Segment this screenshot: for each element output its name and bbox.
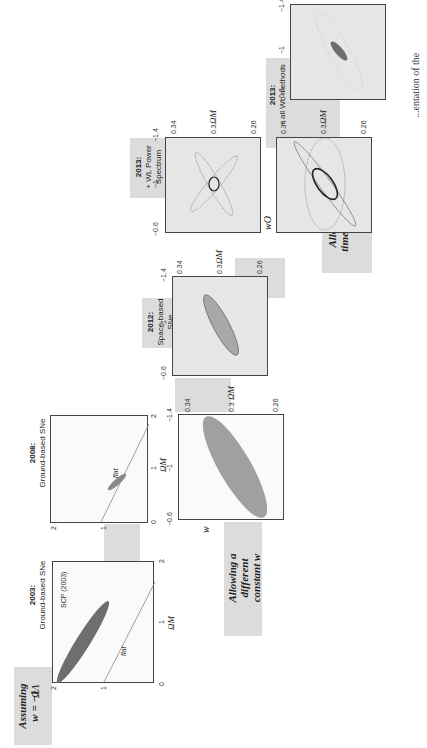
wl-ps-ellipse-b xyxy=(186,153,241,216)
panel-2013all-ytick-1: −1 xyxy=(278,46,285,54)
panel-2013ps-year: 2013: xyxy=(134,138,144,196)
panel-2003-ytick-1: 1 xyxy=(100,686,107,690)
wo-ellipse-long xyxy=(290,138,361,229)
panel-constant-w-ytick-06: −0.6 xyxy=(166,512,173,526)
panel-2008-ytick-1: 1 xyxy=(100,526,107,530)
panel-2012-xlabel: ΩM xyxy=(214,250,224,264)
panel-2012-year: 2012: xyxy=(146,294,156,350)
panel-2012-xtick-034: 0.34 xyxy=(176,260,183,274)
panel-2013ps-xtick-034: 0.34 xyxy=(170,120,177,134)
panel-2013all-year: 2013: xyxy=(268,62,278,128)
constant-w-ellipse xyxy=(192,409,278,525)
panel-constant-w-xlabel: ΩM xyxy=(226,386,236,400)
panel-2013ps-svg xyxy=(166,136,262,232)
flat-line xyxy=(101,424,149,522)
panel-constant-w-svg xyxy=(179,413,285,519)
panel-2013ps-wo-xlabel: ΩM xyxy=(318,110,328,124)
panel-2013ps-wo-ylabel: wO xyxy=(262,216,273,230)
panel-2008-subtitle: Ground-based SNe xyxy=(38,419,47,488)
wl-ps-combined-ellipse xyxy=(209,177,219,191)
panel-2003-subtitle: Ground-based SNe xyxy=(38,561,47,630)
panel-2012-ytick-14: −1.4 xyxy=(160,268,167,282)
space-sne-ellipse xyxy=(198,291,244,359)
panel-2013ps-wo-plot xyxy=(276,137,372,233)
constant-line1: Allowing a xyxy=(226,553,238,602)
panel-2012-ytick-06: −0.6 xyxy=(160,366,167,380)
panel-constant-w-ytick-1: −1 xyxy=(166,464,173,472)
wo-ellipse-outer xyxy=(305,138,345,230)
panel-2012-svg xyxy=(173,275,269,375)
constant-line2: different xyxy=(238,559,250,598)
panel-2003-flat-label: flat xyxy=(120,647,127,656)
panel-2013ps-ytick-14: −1.4 xyxy=(152,128,159,142)
panel-2012-xtick-03: 0.3 xyxy=(216,264,223,274)
panel-2008-xtick-2: 2 xyxy=(150,414,157,418)
panel-2013ps-xtick-026: 0.26 xyxy=(250,120,257,134)
panel-2003-title: 2003: Ground-based SNe xyxy=(28,550,48,640)
label-constant-w: Allowing a different constant w xyxy=(226,526,262,630)
panel-2012-ytick-1: −1 xyxy=(160,320,167,328)
panel-2008-xtick-0: 0 xyxy=(150,520,157,524)
panel-2012-plot xyxy=(172,276,268,376)
panel-2013ps-ytick-06: −0.6 xyxy=(152,222,159,236)
all-wl-ellipse xyxy=(328,39,350,63)
rotated-figure: Assuming w = −1 Allowing a different con… xyxy=(0,0,427,748)
panel-2003-svg xyxy=(53,560,155,682)
panel-constant-w-xtick-034: 0.34 xyxy=(184,398,191,412)
panel-2003-xtick-0: 0 xyxy=(158,682,165,686)
wo-combined-ellipse xyxy=(308,165,342,204)
panel-2003-xlabel: ΩM xyxy=(166,616,176,630)
wl-ps-ellipse-a xyxy=(191,150,237,218)
panel-2013all-plot xyxy=(290,4,386,100)
panel-2013ps-xtick-03: 0.3 xyxy=(210,124,217,134)
panel-2012-xtick-026: 0.26 xyxy=(256,260,263,274)
panel-constant-w-ytick-14: −1.4 xyxy=(166,408,173,422)
label-assuming-w-minus-1: Assuming w = −1 xyxy=(16,669,40,743)
panel-2013all-ytick-14: −1.4 xyxy=(278,0,285,12)
panel-2003-ylabel: ΩΛ xyxy=(30,685,41,698)
panel-2003-annotation: SCP (2003) xyxy=(60,572,67,608)
panel-2013all-ytick-06: −0.6 xyxy=(278,88,285,102)
panel-2008-title: 2008: Ground-based SNe xyxy=(28,408,48,498)
panel-2013ps-ytick-1: −1 xyxy=(152,180,159,188)
panel-2003-plot xyxy=(52,561,154,683)
panel-2013ps-wo-xtick-026: 0.26 xyxy=(360,120,367,134)
panel-2013ps-wo-svg xyxy=(277,136,373,232)
panel-2003-year: 2003: xyxy=(28,550,38,640)
panel-2003-xtick-1: 1 xyxy=(158,620,165,624)
panel-constant-w-plot xyxy=(178,414,284,520)
panel-2013ps-wo-xtick-03: 0.3 xyxy=(320,124,327,134)
caption-fragment: ...entation of the xyxy=(410,53,421,118)
panel-2008-xtick-1: 1 xyxy=(150,466,157,470)
panel-2013all-svg xyxy=(291,3,387,99)
panel-2003-xtick-2: 2 xyxy=(158,559,165,563)
constant-line3: constant w xyxy=(250,554,262,603)
panel-constant-w-ylabel: w xyxy=(200,526,211,533)
panel-2013ps-plot xyxy=(165,137,261,233)
panel-2008-year: 2008: xyxy=(28,408,38,498)
panel-constant-w-xtick-026: 0.26 xyxy=(272,398,279,412)
flat-line xyxy=(104,582,155,682)
panel-2008-ytick-2: 2 xyxy=(50,526,57,530)
panel-2013ps-title: 2013: + WL Power Spectrum xyxy=(134,138,164,196)
panel-2003-ytick-2: 2 xyxy=(50,686,57,690)
panel-2008-flat-label: flat xyxy=(112,469,119,478)
assuming-line1: Assuming xyxy=(16,683,28,728)
panel-constant-w-xtick-03: 0.3 xyxy=(228,402,235,412)
panel-2008-plot xyxy=(50,415,148,523)
scp-2003-ellipse xyxy=(52,598,115,687)
panel-2008-svg xyxy=(51,414,149,522)
panel-2013ps-xlabel: ΩM xyxy=(208,110,218,124)
